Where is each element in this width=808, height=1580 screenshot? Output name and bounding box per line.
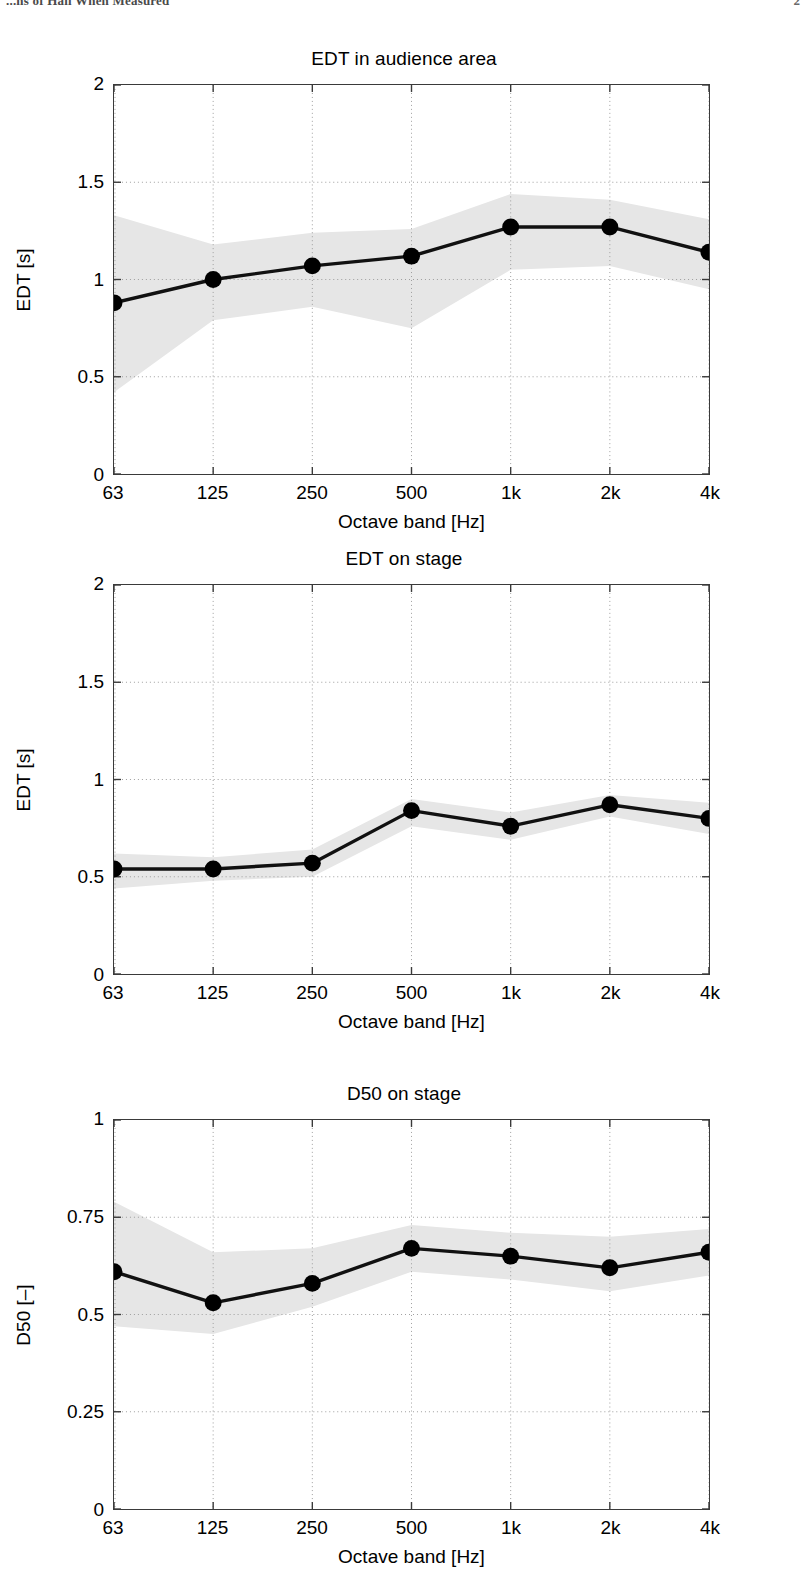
y-tick-label: 0.5 [78, 366, 104, 388]
x-tick-label: 250 [296, 1517, 328, 1539]
y-tick-label: 0.75 [67, 1206, 104, 1228]
x-axis-label: Octave band [Hz] [113, 511, 710, 533]
chart-canvas [114, 85, 709, 474]
chart-canvas [114, 1120, 709, 1509]
x-tick-label: 250 [296, 982, 328, 1004]
x-tick-label: 500 [396, 982, 428, 1004]
chart-title: EDT on stage [0, 548, 808, 570]
figure-edt-audience-area: EDT in audience area EDT [s] Octave band… [0, 40, 808, 560]
y-axis-label: EDT [s] [13, 248, 35, 311]
x-tick-label: 2k [600, 1517, 620, 1539]
x-tick-label: 125 [197, 482, 229, 504]
uncertainty-band [114, 194, 709, 392]
chart-title: D50 on stage [0, 1083, 808, 1105]
x-tick-label: 63 [102, 1517, 123, 1539]
data-point-marker [403, 1240, 420, 1257]
y-tick-label: 2 [93, 573, 104, 595]
x-tick-label: 1k [501, 482, 521, 504]
x-tick-label: 125 [197, 982, 229, 1004]
x-tick-label: 63 [102, 482, 123, 504]
x-tick-label: 2k [600, 482, 620, 504]
plot-box [113, 584, 710, 975]
x-tick-label: 4k [700, 1517, 720, 1539]
data-point-marker [502, 219, 519, 236]
data-point-marker [205, 1294, 222, 1311]
figure-edt-on-stage: EDT on stage EDT [s] Octave band [Hz] 00… [0, 540, 808, 1060]
chart-canvas [114, 585, 709, 974]
x-tick-label: 125 [197, 1517, 229, 1539]
data-point-marker [403, 802, 420, 819]
grid-lines [114, 585, 709, 974]
chart-title: EDT in audience area [0, 48, 808, 70]
data-point-marker [601, 1259, 618, 1276]
data-point-marker [304, 1275, 321, 1292]
y-tick-label: 0.25 [67, 1401, 104, 1423]
running-head: ...ns of Hall When Measured [6, 0, 169, 9]
plot-box [113, 84, 710, 475]
y-tick-label: 1 [93, 769, 104, 791]
plot-area: EDT [s] Octave band [Hz] 00.511.52631252… [113, 84, 710, 475]
plot-box [113, 1119, 710, 1510]
data-point-marker [304, 855, 321, 872]
data-point-marker [304, 257, 321, 274]
y-tick-label: 0.5 [78, 1304, 104, 1326]
y-tick-label: 1.5 [78, 671, 104, 693]
plot-area: EDT [s] Octave band [Hz] 00.511.52631252… [113, 584, 710, 975]
x-axis-label: Octave band [Hz] [113, 1011, 710, 1033]
data-point-marker [601, 796, 618, 813]
data-point-marker [403, 248, 420, 265]
y-tick-label: 1 [93, 1108, 104, 1130]
y-axis-label: EDT [s] [13, 748, 35, 811]
x-tick-label: 250 [296, 482, 328, 504]
data-point-marker [502, 1248, 519, 1265]
y-tick-label: 0.5 [78, 866, 104, 888]
x-tick-label: 1k [501, 982, 521, 1004]
y-tick-label: 2 [93, 73, 104, 95]
y-tick-label: 1.5 [78, 171, 104, 193]
page-header: ...ns of Hall When Measured 2 [0, 0, 808, 16]
x-tick-label: 4k [700, 482, 720, 504]
data-point-marker [502, 818, 519, 835]
x-tick-label: 1k [501, 1517, 521, 1539]
y-axis-label: D50 [–] [13, 1284, 35, 1345]
x-axis-label: Octave band [Hz] [113, 1546, 710, 1568]
x-tick-label: 63 [102, 982, 123, 1004]
x-tick-label: 2k [600, 982, 620, 1004]
data-point-marker [601, 219, 618, 236]
x-tick-label: 500 [396, 482, 428, 504]
figure-d50-on-stage: D50 on stage D50 [–] Octave band [Hz] 00… [0, 1075, 808, 1580]
y-tick-label: 1 [93, 269, 104, 291]
x-tick-label: 4k [700, 982, 720, 1004]
page-number: 2 [794, 0, 801, 9]
data-point-marker [205, 861, 222, 878]
x-tick-label: 500 [396, 1517, 428, 1539]
data-point-marker [205, 271, 222, 288]
plot-area: D50 [–] Octave band [Hz] 00.250.50.75163… [113, 1119, 710, 1510]
